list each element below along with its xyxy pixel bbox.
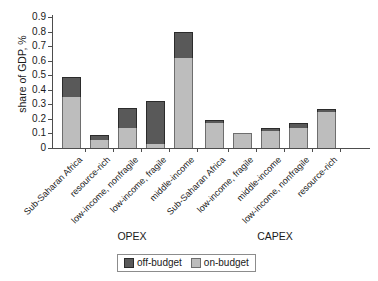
bar-segment-on-budget xyxy=(146,144,165,148)
legend-label-on-budget: on-budget xyxy=(204,257,249,268)
y-axis-tick-label: 0.6 xyxy=(12,56,46,66)
y-axis-tick-label: 0.9 xyxy=(12,12,46,22)
y-axis-tick-label: 0.5 xyxy=(12,70,46,80)
x-axis-tick-mark xyxy=(256,148,257,152)
x-axis-tick-mark xyxy=(141,148,142,152)
y-axis-tick-label: 0.7 xyxy=(12,41,46,51)
bar-opex-2 xyxy=(118,108,137,148)
bar-segment-off-budget xyxy=(174,32,193,59)
x-axis-group-label-opex: OPEX xyxy=(92,230,172,242)
bar-opex-4 xyxy=(174,32,193,148)
chart-legend: off-budget on-budget xyxy=(117,254,256,272)
bar-capex-0 xyxy=(205,120,224,148)
y-axis-tick-label: 0.1 xyxy=(12,128,46,138)
y-axis-tick-label: 0.3 xyxy=(12,99,46,109)
bar-capex-1 xyxy=(233,133,252,148)
bar-segment-on-budget xyxy=(174,58,193,148)
y-axis-tick-label: 0 xyxy=(12,143,46,153)
x-axis-tick-mark xyxy=(169,148,170,152)
legend-item-off-budget: off-budget xyxy=(124,257,182,268)
y-axis-tick-label: 0.2 xyxy=(12,114,46,124)
bar-segment-on-budget xyxy=(62,97,81,148)
bar-chart: share of GDP, % 0.90.80.70.60.50.40.30.2… xyxy=(0,0,378,281)
bar-segment-on-budget xyxy=(118,128,137,148)
bar-segment-off-budget xyxy=(146,101,165,143)
bar-capex-4 xyxy=(317,109,336,148)
x-axis-tick-mark xyxy=(312,148,313,152)
legend-item-on-budget: on-budget xyxy=(191,257,249,268)
x-axis-tick-mark xyxy=(197,148,198,152)
x-axis-tick-mark xyxy=(228,148,229,152)
x-axis-tick-mark xyxy=(85,148,86,152)
bar-segment-on-budget xyxy=(205,123,224,148)
bar-segment-on-budget xyxy=(233,133,252,148)
legend-label-off-budget: off-budget xyxy=(137,257,182,268)
bar-capex-3 xyxy=(289,123,308,148)
bar-segment-off-budget xyxy=(118,108,137,128)
bar-opex-1 xyxy=(90,135,109,148)
legend-swatch-off-budget-icon xyxy=(124,258,134,268)
bar-segment-on-budget xyxy=(261,131,280,148)
bar-opex-3 xyxy=(146,101,165,148)
bar-segment-off-budget xyxy=(62,77,81,97)
x-axis-group-label-capex: CAPEX xyxy=(235,230,315,242)
bar-capex-2 xyxy=(261,128,280,148)
x-axis-line xyxy=(52,148,370,149)
y-axis-tick-label: 0.4 xyxy=(12,85,46,95)
plot-area xyxy=(52,17,370,148)
x-axis-tick-mark xyxy=(284,148,285,152)
legend-swatch-on-budget-icon xyxy=(191,258,201,268)
bar-segment-on-budget xyxy=(289,128,308,148)
y-axis-tick-label: 0.8 xyxy=(12,27,46,37)
x-axis-tick-mark xyxy=(340,148,341,152)
bar-opex-0 xyxy=(62,77,81,148)
x-axis-tick-mark xyxy=(113,148,114,152)
bar-segment-on-budget xyxy=(90,140,109,148)
bar-segment-on-budget xyxy=(317,112,336,148)
